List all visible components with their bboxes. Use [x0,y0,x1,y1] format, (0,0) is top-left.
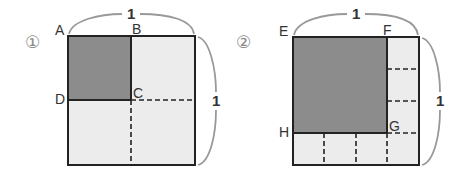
vertex-f: F [383,22,392,38]
vertex-e: E [279,23,288,39]
figure-2-number: ② [236,32,251,52]
vertex-d: D [55,91,65,107]
diagram-canvas: ① 1 1 A B C D ② 1 1 E F [0,0,462,177]
figure-1-right-length: 1 [212,92,220,109]
figure-1-number: ① [25,32,40,52]
figure-1-top-length: 1 [127,5,135,22]
figure-2: ② 1 1 E F G H [236,5,444,165]
figure-2-right-length: 1 [436,92,444,109]
figure-1: ① 1 1 A B C D [25,5,220,165]
figure-2-shaded-square-efgh [293,37,387,133]
figure-1-shaded-square-abcd [68,36,131,100]
vertex-c: C [133,85,143,101]
figure-2-top-length: 1 [352,5,360,22]
vertex-h: H [279,124,289,140]
vertex-b: B [132,21,141,37]
vertex-a: A [55,22,65,38]
vertex-g: G [389,118,400,134]
